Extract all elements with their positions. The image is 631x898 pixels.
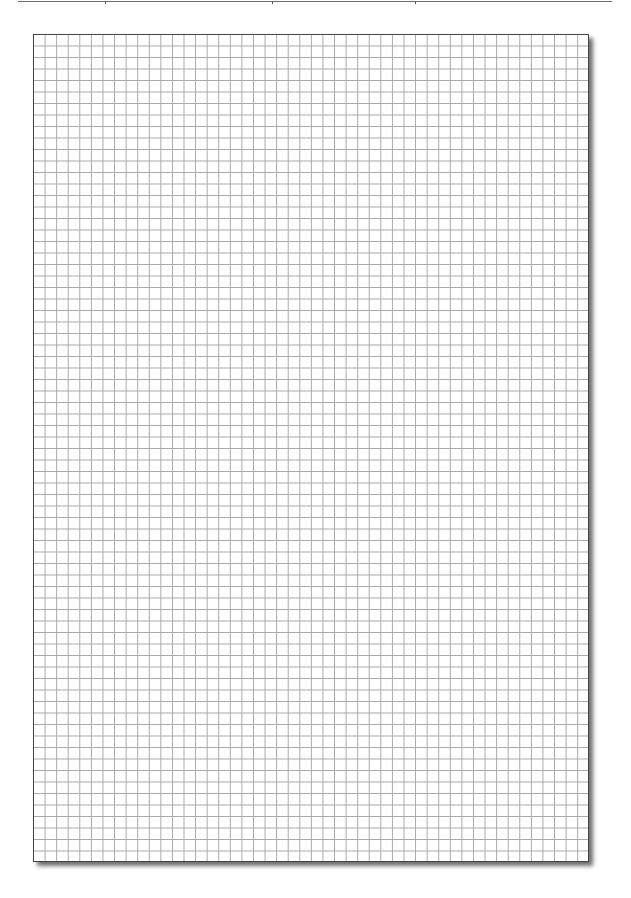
grid-type-label: graph-paper xyxy=(34,35,35,36)
header-rule-divider xyxy=(415,1,416,4)
header-rule-divider xyxy=(272,1,273,4)
header-rule xyxy=(18,1,612,2)
header-rule-divider xyxy=(105,1,106,4)
graph-paper-grid: graph-paper xyxy=(33,34,589,862)
